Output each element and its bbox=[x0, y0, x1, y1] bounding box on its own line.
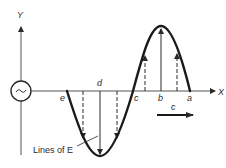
propagation-arrow: c bbox=[157, 102, 193, 115]
diagram-svg: Y X e d c b a c Lines of E bbox=[0, 0, 226, 168]
y-axis-label: Y bbox=[17, 10, 24, 20]
point-label-c: c bbox=[134, 93, 139, 103]
point-label-b: b bbox=[158, 93, 163, 103]
annotation-label: Lines of E bbox=[33, 145, 73, 155]
x-axis-label: X bbox=[217, 87, 225, 97]
propagation-label: c bbox=[171, 102, 176, 112]
point-label-e: e bbox=[60, 93, 65, 103]
point-label-d: d bbox=[97, 78, 103, 88]
wave-diagram: Y X e d c b a c Lines of E bbox=[0, 0, 226, 168]
ac-source-icon bbox=[11, 81, 31, 101]
point-label-a: a bbox=[187, 93, 192, 103]
